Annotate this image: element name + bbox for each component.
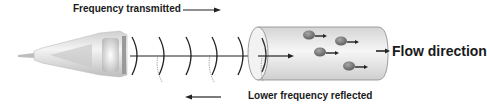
- transmitted-arrow-icon: [183, 8, 221, 13]
- ultrasound-probe-icon: [18, 31, 127, 77]
- frequency-transmitted-label: Frequency transmitted: [73, 3, 181, 14]
- flow-direction-label: Flow direction: [392, 43, 487, 59]
- lower-frequency-reflected-label: Lower frequency reflected: [248, 90, 372, 101]
- reflected-arrow-icon: [185, 95, 221, 100]
- reflected-waves-icon: [157, 55, 214, 82]
